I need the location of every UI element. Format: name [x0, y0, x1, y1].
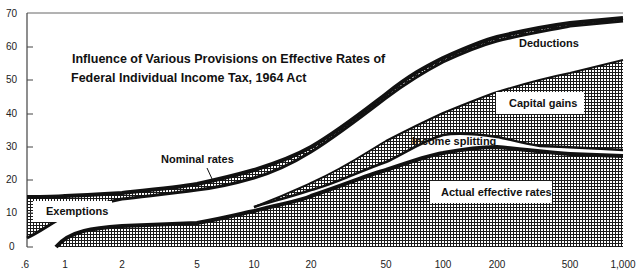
x-tick-20: 20: [305, 259, 317, 270]
y-tick-60: 60: [6, 41, 18, 52]
label-deductions: Deductions: [519, 37, 579, 49]
y-tick-0: 0: [9, 241, 15, 252]
x-tick-0.6: .6: [21, 259, 30, 270]
x-axis: .6 1 2 5 10 20 50 100 200 500 1,000: [21, 259, 636, 270]
x-tick-200: 200: [489, 259, 506, 270]
y-tick-50: 50: [6, 74, 18, 85]
label-nominal-rates: Nominal rates: [161, 153, 234, 165]
chart-title: Influence of Various Provisions on Effec…: [71, 52, 386, 85]
y-tick-20: 20: [6, 174, 18, 185]
nominal-rates-pointer: [207, 168, 213, 181]
label-actual-effective-rates: Actual effective rates: [441, 186, 552, 198]
y-tick-10: 10: [6, 207, 18, 218]
x-tick-10: 10: [248, 259, 260, 270]
x-tick-5: 5: [194, 259, 200, 270]
tax-rates-chart: 0 10 20 30 40 50 60 70 .6 1 2 5 10 20 50…: [0, 0, 640, 276]
title-line-2: Federal Individual Income Tax, 1964 Act: [71, 71, 307, 85]
label-exemptions: Exemptions: [46, 205, 108, 217]
x-tick-500: 500: [562, 259, 579, 270]
x-tick-1000: 1,000: [610, 259, 635, 270]
title-line-1: Influence of Various Provisions on Effec…: [72, 52, 386, 66]
x-tick-100: 100: [435, 259, 452, 270]
x-tick-1: 1: [62, 259, 68, 270]
y-tick-40: 40: [6, 108, 18, 119]
label-income-splitting: Income splitting: [412, 135, 496, 147]
label-capital-gains: Capital gains: [509, 97, 577, 109]
y-tick-30: 30: [6, 141, 18, 152]
x-tick-50: 50: [380, 259, 392, 270]
y-tick-70: 70: [6, 8, 18, 19]
x-tick-2: 2: [119, 259, 125, 270]
